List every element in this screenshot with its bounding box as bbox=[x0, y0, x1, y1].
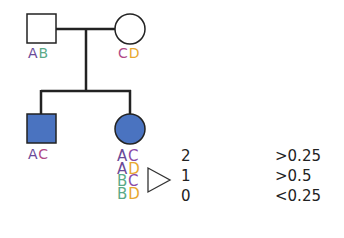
father-square bbox=[27, 14, 56, 43]
affected-daughter-circle bbox=[115, 114, 145, 144]
mother-circle bbox=[115, 14, 145, 44]
allele-b: B bbox=[39, 45, 50, 61]
shared-count-2: 2 bbox=[181, 147, 191, 165]
shared-count-0: 0 bbox=[181, 187, 191, 205]
son-genotype: AC bbox=[28, 147, 49, 161]
allele-d: D bbox=[129, 45, 141, 61]
allele-d: D bbox=[128, 185, 141, 203]
probability-2: >0.25 bbox=[275, 147, 321, 165]
allele-a: A bbox=[28, 45, 39, 61]
probability-0: <0.25 bbox=[275, 187, 321, 205]
allele-a: A bbox=[28, 146, 38, 162]
mother-genotype: CD bbox=[118, 46, 141, 60]
father-genotype: AB bbox=[28, 46, 49, 60]
allele-c: C bbox=[38, 146, 49, 162]
probability-1: >0.5 bbox=[275, 167, 311, 185]
genotype-row-bd: BD bbox=[117, 188, 141, 201]
affected-son-square bbox=[27, 114, 56, 143]
pointer-triangle-icon bbox=[148, 168, 170, 192]
allele-b: B bbox=[117, 185, 128, 203]
allele-c: C bbox=[118, 45, 129, 61]
daughter-genotype-list: AC AD BC BD bbox=[117, 150, 141, 200]
shared-count-1: 1 bbox=[181, 167, 191, 185]
